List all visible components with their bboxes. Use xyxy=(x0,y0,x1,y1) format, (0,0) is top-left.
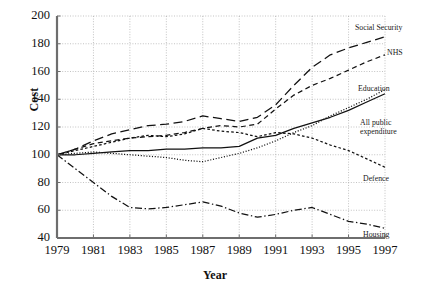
series-label-education: Education xyxy=(358,85,390,94)
series-line-all-public-expenditure xyxy=(57,94,385,155)
y-tick-label: 140 xyxy=(8,92,50,105)
series-label-defence: Defence xyxy=(363,175,389,184)
series-label-line: expenditure xyxy=(360,128,397,137)
x-tick-label: 1997 xyxy=(362,244,408,257)
plot-area xyxy=(57,16,385,238)
series-label-housing: Housing xyxy=(363,231,389,240)
x-axis-title: Year xyxy=(0,268,430,283)
y-tick-label: 180 xyxy=(8,37,50,50)
y-tick-label: 120 xyxy=(8,120,50,133)
y-tick-label: 160 xyxy=(8,65,50,78)
series-label-line: Defence xyxy=(363,175,389,184)
gridlines xyxy=(57,16,385,238)
y-tick-label: 100 xyxy=(8,148,50,161)
series-label-all-public-expenditure: All publicexpenditure xyxy=(360,119,397,136)
series-label-nhs: NHS xyxy=(387,49,403,58)
y-tick-label: 60 xyxy=(8,203,50,216)
series-lines xyxy=(57,37,385,228)
series-label-line: NHS xyxy=(387,49,403,58)
y-tick-label: 40 xyxy=(8,231,50,244)
series-line-housing xyxy=(57,155,385,229)
series-label-line: Social Security xyxy=(355,24,402,33)
series-label-line: Housing xyxy=(363,231,389,240)
series-label-social-security: Social Security xyxy=(355,24,402,33)
y-tick-label: 80 xyxy=(8,176,50,189)
chart-figure: Cost Year 200180160140120100806040 19791… xyxy=(0,0,430,299)
y-tick-label: 200 xyxy=(8,9,50,22)
series-line-education xyxy=(57,90,385,162)
series-label-line: Education xyxy=(358,85,390,94)
series-line-social-security xyxy=(57,37,385,155)
series-line-nhs xyxy=(57,55,385,155)
chart-canvas xyxy=(57,16,385,238)
